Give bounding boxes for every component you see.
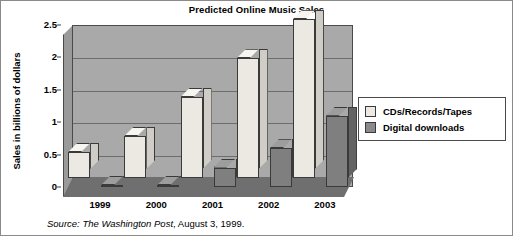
- bar-2003-series2: [326, 107, 348, 187]
- bar-top-face: [237, 49, 259, 58]
- y-tick-label: 2: [29, 53, 57, 63]
- y-tick-label: 1: [29, 117, 57, 127]
- bar-front-face: [326, 116, 348, 187]
- bar-front-face: [237, 58, 259, 178]
- bar-2003-series1: [293, 10, 315, 178]
- bar-top-face: [101, 176, 123, 185]
- x-tick-label: 2003: [314, 199, 335, 210]
- bar-1999-series1: [68, 143, 90, 178]
- chart-legend: CDs/Records/Tapes Digital downloads: [358, 97, 506, 141]
- bar-side-face: [348, 107, 357, 178]
- bar-2000-series2: [157, 176, 179, 187]
- bar-front-face: [68, 152, 90, 178]
- y-axis-tick-labels: 00.511.522.5: [27, 1, 57, 236]
- bar-front-face: [157, 185, 179, 187]
- legend-item: CDs/Records/Tapes: [365, 106, 499, 117]
- y-tick-label: 1.5: [29, 85, 57, 95]
- y-tick-mark: [57, 154, 61, 155]
- bar-2002-series2: [270, 139, 292, 187]
- bar-top-face: [181, 88, 203, 97]
- legend-swatch-cds-icon: [365, 106, 376, 117]
- source-date: , August 3, 1999.: [173, 218, 244, 229]
- x-tick-label: 2002: [258, 199, 279, 210]
- y-tick-mark: [57, 187, 61, 188]
- bar-2001-series2: [214, 159, 236, 187]
- bar-2000-series1: [124, 127, 146, 178]
- bar-top-face: [214, 159, 236, 168]
- bar-front-face: [124, 136, 146, 178]
- x-tick-label: 2000: [146, 199, 167, 210]
- x-tick-label: 2001: [202, 199, 223, 210]
- bar-top-face: [270, 139, 292, 148]
- chart-figure: Predicted Online Music Sales Sales in bi…: [0, 0, 513, 236]
- bar-side-face: [203, 88, 212, 169]
- legend-label: Digital downloads: [383, 122, 464, 133]
- bar-2002-series1: [237, 49, 259, 178]
- bar-top-face: [68, 143, 90, 152]
- source-publication: Source: The Washington Post: [47, 218, 173, 229]
- legend-swatch-downloads-icon: [365, 122, 376, 133]
- chart-title: Predicted Online Music Sales: [1, 4, 512, 15]
- bar-front-face: [101, 185, 123, 187]
- y-tick-label: 2.5: [29, 20, 57, 30]
- bar-front-face: [270, 148, 292, 187]
- bar-front-face: [181, 97, 203, 178]
- bar-top-face: [157, 176, 179, 185]
- y-tick-mark: [57, 122, 61, 123]
- bar-1999-series2: [101, 176, 123, 187]
- bar-2001-series1: [181, 88, 203, 178]
- y-tick-mark: [57, 89, 61, 90]
- y-tick-mark: [57, 57, 61, 58]
- bar-top-face: [124, 127, 146, 136]
- legend-label: CDs/Records/Tapes: [383, 106, 472, 117]
- y-tick-mark: [57, 25, 61, 26]
- plot-area: [63, 25, 353, 197]
- x-tick-label: 1999: [90, 199, 111, 210]
- bar-side-face: [259, 49, 268, 169]
- legend-item: Digital downloads: [365, 122, 499, 133]
- y-axis-title: Sales in billions of dollars: [11, 31, 25, 191]
- y-tick-label: 0.5: [29, 150, 57, 160]
- y-tick-label: 0: [29, 182, 57, 192]
- bar-front-face: [214, 168, 236, 187]
- bar-top-face: [293, 10, 315, 19]
- bar-front-face: [293, 19, 315, 178]
- source-note: Source: The Washington Post, August 3, 1…: [47, 218, 244, 229]
- bar-top-face: [326, 107, 348, 116]
- x-axis-tick-labels: 19992000200120022003: [63, 199, 353, 213]
- bar-side-face: [315, 10, 324, 169]
